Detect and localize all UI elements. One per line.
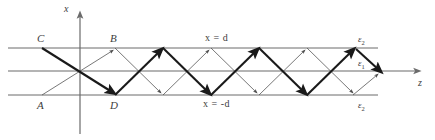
- thin-ray-segment: [163, 51, 208, 95]
- thin-ray-segment: [115, 48, 160, 92]
- point-label-C: C: [37, 33, 44, 44]
- permittivity-label-upper: ε2: [358, 35, 365, 46]
- bold-ray-segment: [42, 48, 112, 92]
- thin-ray-segment: [211, 48, 256, 92]
- point-label-D: D: [110, 100, 118, 111]
- point-label-B: B: [110, 33, 117, 44]
- bold-ray-segment: [259, 48, 304, 92]
- permittivity-label-lower: ε2: [358, 101, 365, 112]
- thin-ray-segment: [42, 51, 112, 95]
- bold-ray-segment: [307, 51, 352, 95]
- bold-ray-segment: [211, 51, 256, 95]
- thin-ray-segment: [259, 51, 304, 95]
- lower-boundary-label: x = -d: [203, 99, 230, 109]
- thin-ray-exit-segment: [353, 75, 377, 95]
- bold-ray-segment: [163, 48, 208, 92]
- z-axis-label: z: [418, 78, 422, 88]
- permittivity-subscript-lower: 2: [362, 105, 365, 112]
- point-label-A: A: [37, 100, 44, 111]
- waveguide-ray-diagram: x z C B A D x = d x = -d ε2 ε1 ε2: [0, 0, 435, 140]
- boundary-lines: [8, 48, 418, 95]
- permittivity-subscript-upper: 2: [362, 39, 365, 46]
- thin-ray-segment: [307, 48, 352, 92]
- x-axis-label: x: [64, 4, 68, 14]
- bold-ray-segment: [115, 51, 160, 95]
- permittivity-label-core: ε1: [358, 59, 365, 70]
- permittivity-subscript-core: 1: [362, 63, 365, 70]
- ray-diagram-canvas: [0, 0, 435, 140]
- upper-boundary-label: x = d: [205, 33, 228, 43]
